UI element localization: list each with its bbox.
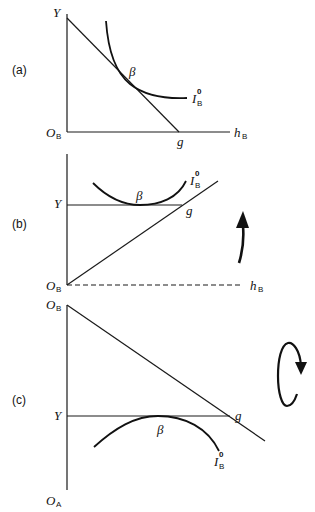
svg-text:0: 0 xyxy=(219,450,224,459)
panel-b-curve-label: I 0 B xyxy=(189,169,200,190)
panel-b-x-label: h B xyxy=(250,278,263,294)
panel-a-y-label: Y xyxy=(53,5,62,20)
svg-text:0: 0 xyxy=(197,87,202,96)
panel-a-g-label: g xyxy=(177,134,184,149)
panel-a-x-label: h B xyxy=(234,125,247,141)
svg-text:B: B xyxy=(197,99,202,108)
panel-b-y-label: Y xyxy=(54,196,63,211)
svg-text:B: B xyxy=(258,285,263,294)
panel-a-curve-label: I 0 B xyxy=(191,87,202,108)
svg-text:B: B xyxy=(242,132,247,141)
svg-text:h: h xyxy=(234,125,241,140)
svg-text:B: B xyxy=(56,304,61,313)
panel-a: (a) Y β I 0 B O B g h B xyxy=(12,5,247,149)
svg-text:O: O xyxy=(46,493,56,508)
panel-a-origin-label: O B xyxy=(46,125,61,141)
panel-c-g-label: g xyxy=(235,408,242,423)
svg-text:A: A xyxy=(56,500,62,509)
panel-c-bottom-origin-label: O A xyxy=(46,493,62,509)
panel-a-indifference-curve xyxy=(106,21,187,98)
svg-text:O: O xyxy=(46,125,56,140)
panel-c-curve-label: I 0 B xyxy=(213,450,224,471)
panel-b-label: (b) xyxy=(12,217,27,231)
svg-text:h: h xyxy=(250,278,257,293)
svg-text:O: O xyxy=(46,297,56,312)
curved-up-arrow-icon xyxy=(236,211,249,263)
panel-b-beta-label: β xyxy=(135,188,143,203)
panel-c-top-origin-label: O B xyxy=(46,297,61,313)
svg-text:O: O xyxy=(46,278,56,293)
svg-text:0: 0 xyxy=(195,169,200,178)
svg-text:B: B xyxy=(195,181,200,190)
svg-text:B: B xyxy=(56,285,61,294)
panel-c-label: (c) xyxy=(12,393,26,407)
panel-b-g-label: g xyxy=(186,203,193,218)
panel-b-origin-label: O B xyxy=(46,278,61,294)
panel-b: (b) Y β I 0 B g O B h B xyxy=(12,154,263,294)
panel-c: (c) O B Y β g I 0 B O A xyxy=(12,297,307,509)
panel-a-budget-line xyxy=(67,18,179,132)
panel-c-y-label: Y xyxy=(54,408,63,423)
clockwise-rotation-arrow-icon xyxy=(278,343,307,406)
panel-c-beta-label: β xyxy=(156,422,164,437)
diagram-canvas: (a) Y β I 0 B O B g h B (b) Y β I xyxy=(0,0,315,512)
svg-text:B: B xyxy=(219,462,224,471)
svg-text:B: B xyxy=(56,132,61,141)
panel-b-rotated-budget-line xyxy=(67,181,218,285)
panel-a-label: (a) xyxy=(12,63,27,77)
panel-a-beta-label: β xyxy=(128,64,136,79)
